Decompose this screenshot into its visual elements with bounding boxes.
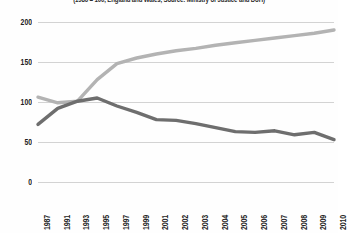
y-axis-tick-200: 200	[9, 16, 32, 27]
y-axis-tick-50: 50	[9, 136, 32, 147]
series-line-rising-series	[38, 30, 334, 103]
x-axis-tick-2007: 2007	[279, 215, 289, 230]
x-axis-tick-1997: 1997	[121, 215, 131, 230]
x-axis-tick-2003: 2003	[200, 215, 210, 230]
x-axis-tick-2006: 2006	[259, 215, 269, 230]
series-lines	[38, 22, 334, 182]
x-axis-tick-2008: 2008	[299, 215, 309, 230]
x-axis-tick-2004: 2004	[220, 215, 230, 230]
x-axis-tick-2009: 2009	[318, 215, 328, 230]
x-axis-tick-2001: 2001	[160, 215, 170, 230]
y-axis-tick-100: 100	[9, 96, 32, 107]
gridline-0	[38, 182, 334, 183]
x-axis-tick-1991: 1991	[62, 215, 72, 230]
x-axis-tick-1995: 1995	[101, 215, 111, 230]
chart-title: (1986 = 100, England and Wales, Source: …	[0, 0, 338, 3]
x-axis-tick-1987: 1987	[42, 215, 52, 230]
y-axis-tick-0: 0	[9, 176, 32, 187]
x-axis-tick-1999: 1999	[141, 215, 151, 230]
x-axis-tick-1993: 1993	[81, 215, 91, 230]
series-line-falling-series	[38, 98, 334, 140]
y-axis-tick-150: 150	[9, 56, 32, 67]
x-axis-tick-2010: 2010	[338, 215, 348, 230]
x-axis-tick-2002: 2002	[180, 215, 190, 230]
x-axis-tick-2005: 2005	[239, 215, 249, 230]
plot-area	[38, 22, 334, 182]
x-axis-labels: 1987199119931995199719992001200220032004…	[38, 186, 334, 233]
